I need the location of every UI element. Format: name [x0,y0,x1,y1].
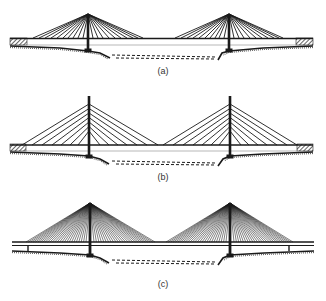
caption-a: (a) [158,66,169,76]
bridge-c [12,203,314,265]
bridge-a [10,14,313,60]
water [112,55,216,57]
bridge-b [10,96,313,166]
bridge-diagrams [0,0,326,301]
ground-left [10,46,110,58]
caption-b: (b) [158,172,169,182]
caption-c: (c) [158,279,169,289]
